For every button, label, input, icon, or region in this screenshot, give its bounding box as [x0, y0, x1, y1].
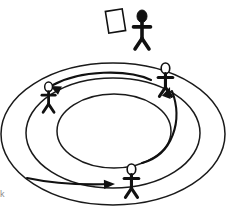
figure-head	[127, 164, 136, 175]
cropped-edge-mark: k	[0, 190, 5, 199]
diagram-canvas: k	[0, 0, 227, 213]
white-card-icon	[105, 9, 125, 33]
figure-head	[45, 82, 53, 92]
figure-head	[137, 10, 147, 22]
scene-illustration	[0, 0, 227, 213]
figure-head	[161, 63, 170, 74]
